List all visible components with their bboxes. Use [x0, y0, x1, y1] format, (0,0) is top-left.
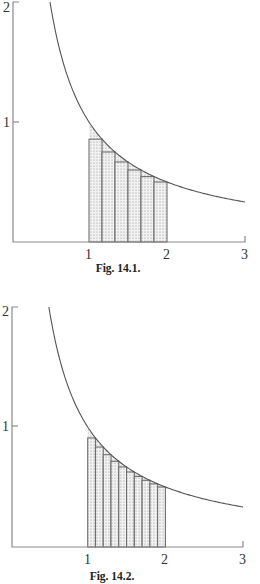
riemann-rectangle	[141, 177, 154, 242]
x-tick-label-3: 3	[239, 552, 246, 567]
riemann-rectangle	[150, 484, 158, 547]
x-tick-label-1: 1	[85, 247, 92, 262]
x-tick-label-2: 2	[161, 552, 168, 567]
riemann-rectangle	[119, 467, 127, 547]
riemann-rectangle	[115, 162, 128, 242]
x-tick-label-1: 1	[84, 552, 91, 567]
riemann-rectangle	[158, 487, 166, 547]
riemann-rectangle	[89, 139, 102, 242]
riemann-rectangle	[95, 447, 103, 547]
riemann-rectangle	[103, 455, 111, 547]
figure-caption: Fig. 14.2.	[90, 570, 135, 583]
riemann-rectangle	[142, 480, 150, 547]
x-tick-label-2: 2	[163, 247, 170, 262]
riemann-rectangle	[128, 170, 141, 242]
riemann-rectangle	[88, 438, 96, 547]
riemann-rectangle	[102, 152, 115, 242]
x-tick-label-3: 3	[241, 247, 248, 262]
y-tick-label-1: 1	[3, 115, 10, 130]
figure-14-1: 2 1 1 2 3 Fig. 14.1.	[3, 0, 248, 275]
curve-one-over-x	[50, 2, 245, 202]
y-tick-label-1: 1	[2, 419, 9, 434]
riemann-rectangle	[154, 182, 167, 242]
riemann-rectangles	[89, 122, 167, 242]
curve-one-over-x	[49, 307, 243, 507]
y-tick-label-2: 2	[3, 0, 10, 15]
riemann-rectangle	[111, 461, 119, 547]
riemann-rectangle	[134, 476, 142, 547]
figure-caption: Fig. 14.1.	[96, 262, 141, 275]
figure-canvas: 2 1 1 2 3 Fig. 14.1. 2 1 1 2 3 Fig. 14.2…	[0, 0, 260, 584]
y-tick-label-2: 2	[2, 304, 9, 319]
riemann-rectangle	[127, 472, 135, 547]
figure-14-2: 2 1 1 2 3 Fig. 14.2.	[2, 304, 246, 583]
riemann-rectangles	[88, 427, 166, 547]
